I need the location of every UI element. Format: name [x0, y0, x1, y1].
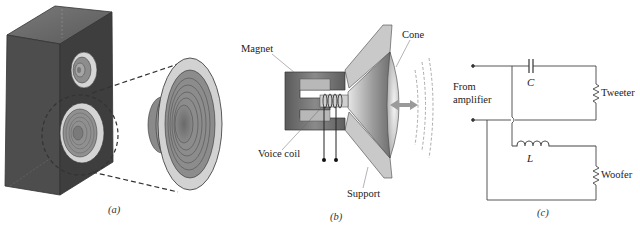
figure-canvas [0, 0, 640, 226]
voice-coil [320, 94, 348, 108]
terminal-dot [322, 158, 326, 162]
label-voice-coil: Voice coil [258, 149, 300, 160]
label-magnet: Magnet [241, 44, 273, 55]
caption-c: (c) [537, 208, 549, 219]
label-woofer: Woofer [601, 170, 632, 181]
label-amplifier: amplifier [453, 95, 491, 106]
label-cone: Cone [402, 30, 424, 41]
woofer-resistor [593, 166, 599, 185]
terminal-dot [334, 158, 338, 162]
cabinet-side [5, 35, 60, 195]
inductor-coil [512, 141, 596, 146]
label-tweeter: Tweeter [601, 88, 635, 99]
caption-a: (a) [108, 205, 120, 216]
label-inductor-l: L [527, 153, 533, 164]
tweeter-resistor [593, 84, 599, 103]
label-capacitor-c: C [527, 77, 534, 88]
enlarged-woofer [148, 58, 222, 190]
panel-c-crossover-circuit [472, 59, 599, 200]
woofer-driver [60, 103, 104, 163]
panel-a-speaker-cabinet [5, 6, 222, 195]
caption-b: (b) [330, 212, 342, 223]
sound-waves [415, 58, 433, 158]
label-support: Support [347, 189, 380, 200]
tweeter-driver [71, 52, 97, 88]
label-from: From [453, 82, 476, 93]
panel-b-speaker-cross-section [272, 25, 433, 188]
